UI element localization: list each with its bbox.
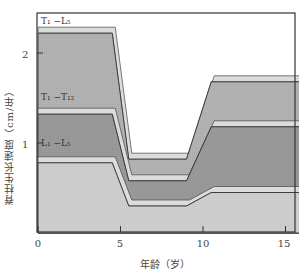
x-tick-5: 5 (117, 238, 123, 249)
y-tick-1: 1 (22, 139, 28, 150)
series-label-t1-t12: T₁ −T₁₂ (41, 92, 74, 102)
x-tick-0: 0 (35, 238, 41, 249)
series-label-l1-l5: L₁ −L₅ (41, 138, 71, 148)
x-tick-15: 15 (278, 238, 291, 249)
y-tick-2: 2 (22, 49, 28, 60)
x-tick-10: 10 (197, 238, 210, 249)
x-axis-label: 年龄（岁） (140, 256, 190, 271)
series-label-t1-l5: T₁ −L₅ (41, 16, 71, 26)
y-axis-label: 脊柱生长速度（cm/年） (2, 60, 18, 230)
